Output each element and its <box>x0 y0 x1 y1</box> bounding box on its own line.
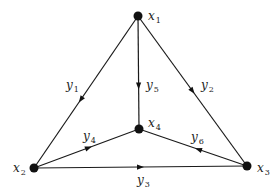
node-label-x2: x2 <box>13 161 26 177</box>
edge-label-y6-base: y <box>190 130 198 144</box>
edge-label-y2-subscript: 2 <box>209 85 214 94</box>
nodes-layer <box>30 12 252 173</box>
edge-label-y5: y5 <box>145 78 159 94</box>
edge-label-y4-subscript: 4 <box>91 136 96 145</box>
edge-label-y3-subscript: 3 <box>145 180 150 189</box>
edge-label-y3: y3 <box>136 173 150 189</box>
arrowhead-y6-icon <box>195 148 202 153</box>
node-x2 <box>30 164 39 173</box>
edge-label-y2: y2 <box>200 78 214 94</box>
edge-label-y6: y6 <box>190 130 204 146</box>
edge-y1 <box>34 16 138 168</box>
edge-label-y2-base: y <box>200 78 208 92</box>
node-label-x2-subscript: 2 <box>21 168 26 177</box>
directed-graph-diagram: y1y2y3y4y5y6x1x2x3x4 <box>0 0 280 194</box>
node-label-x4: x4 <box>148 116 161 132</box>
arrowhead-y4-icon <box>84 147 91 152</box>
edge-label-y5-base: y <box>145 78 153 92</box>
arrowhead-y3-icon <box>137 164 144 169</box>
arrowhead-y1-icon <box>79 95 85 102</box>
node-label-x4-base: x <box>148 116 155 130</box>
edge-label-y6-subscript: 6 <box>199 137 204 146</box>
node-label-x3: x3 <box>257 161 270 177</box>
node-x4 <box>135 125 144 134</box>
arrowhead-y5-icon <box>136 83 141 90</box>
edge-label-y4: y4 <box>82 129 96 145</box>
node-label-x3-subscript: 3 <box>265 168 270 177</box>
edge-label-y1-base: y <box>65 78 73 92</box>
edge-label-y3-base: y <box>136 173 144 187</box>
node-label-x2-base: x <box>13 161 20 175</box>
edge-y5 <box>138 16 139 129</box>
node-label-x1-subscript: 1 <box>156 16 161 25</box>
edge-label-y4-base: y <box>82 129 90 143</box>
node-x3 <box>243 162 252 171</box>
node-label-x3-base: x <box>257 161 264 175</box>
node-label-x1-base: x <box>148 9 155 23</box>
edge-label-y1-subscript: 1 <box>74 85 79 94</box>
edge-label-y5-subscript: 5 <box>154 85 159 94</box>
node-x1 <box>134 12 143 21</box>
arrowhead-y2-icon <box>188 87 194 94</box>
node-label-x1: x1 <box>148 9 161 25</box>
edges-layer <box>34 16 247 168</box>
node-label-x4-subscript: 4 <box>156 123 161 132</box>
edge-label-y1: y1 <box>65 78 79 94</box>
